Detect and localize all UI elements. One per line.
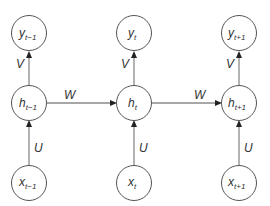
arrowhead-icon [236, 120, 242, 127]
edge-h-to-h-2 [152, 100, 222, 106]
edge-h-to-y-col3 [236, 51, 242, 86]
edge-h-to-h-1 [47, 100, 117, 106]
edge-label-v-col2: V [121, 57, 130, 71]
edge-h-to-y-col1 [26, 51, 32, 86]
edge-label-u-col1: U [34, 141, 43, 155]
arrowhead-icon [215, 100, 222, 106]
node-x-t-minus-1: xt−1 [12, 166, 47, 201]
node-y-t-minus-1: yt−1 [12, 16, 47, 51]
edge-x-to-h-col2 [131, 120, 137, 166]
arrowhead-icon [110, 100, 117, 106]
node-h-t: ht [117, 86, 152, 121]
node-y-t: yt [117, 16, 152, 51]
arrowhead-icon [131, 120, 137, 127]
edge-label-w-2: W [194, 88, 207, 102]
edge-x-to-h-col1 [26, 120, 32, 166]
edge-h-to-y-col2 [131, 51, 137, 86]
arrowhead-icon [131, 51, 137, 58]
edge-label-v-col3: V [226, 57, 235, 71]
edge-label-v-col1: V [16, 57, 25, 71]
node-h-t-plus-1: ht+1 [222, 86, 257, 121]
node-y-t-plus-1: yt+1 [222, 16, 257, 51]
edge-label-u-col3: U [244, 141, 253, 155]
arrowhead-icon [236, 51, 242, 58]
edge-label-u-col2: U [139, 141, 148, 155]
arrowhead-icon [26, 51, 32, 58]
node-h-t-minus-1: ht−1 [12, 86, 47, 121]
node-x-t: xt [117, 166, 152, 201]
edge-label-w-1: W [64, 88, 77, 102]
rnn-diagram: V V V U U U W W yt−1 yt yt+1 ht−1 ht ht+… [0, 0, 270, 206]
node-x-t-plus-1: xt+1 [222, 166, 257, 201]
arrowhead-icon [26, 120, 32, 127]
edge-x-to-h-col3 [236, 120, 242, 166]
